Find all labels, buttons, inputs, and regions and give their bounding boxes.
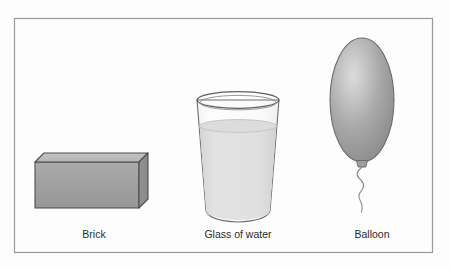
figure-root: Brick Glass of water Balloon: [0, 0, 450, 267]
brick-illustration: [35, 153, 148, 208]
brick-front-face: [35, 162, 139, 208]
objects-illustration: Brick Glass of water Balloon: [0, 0, 450, 267]
glass-of-water-label: Glass of water: [204, 228, 272, 240]
brick-label: Brick: [82, 228, 106, 240]
water-fill: [200, 126, 277, 222]
balloon-body: [330, 38, 394, 162]
glass-of-water-illustration: [197, 92, 279, 222]
balloon-label: Balloon: [354, 228, 389, 240]
water-fill-group: [199, 120, 276, 222]
brick-top-face: [35, 153, 148, 162]
water-surface: [199, 120, 276, 133]
balloon-knot: [357, 161, 368, 168]
brick-side-face: [139, 153, 148, 208]
